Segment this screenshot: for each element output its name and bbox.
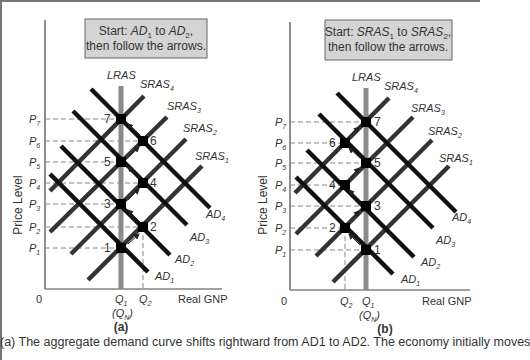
qn-label-b: (QN)	[359, 309, 380, 323]
svg-text:5: 5	[104, 155, 111, 169]
svg-text:P2: P2	[275, 222, 286, 236]
svg-text:1: 1	[104, 241, 111, 255]
svg-text:P3: P3	[29, 198, 40, 212]
figure-caption: (a) The aggregate demand curve shifts ri…	[0, 335, 482, 349]
svg-text:7: 7	[374, 115, 381, 129]
svg-text:2: 2	[150, 220, 157, 234]
svg-text:5: 5	[374, 156, 381, 170]
callout-line1-a: Start: AD1 to AD2,	[99, 24, 193, 40]
callout-line2-a: then follow the arrows.	[86, 39, 206, 53]
svg-text:SRAS1: SRAS1	[195, 150, 229, 164]
svg-text:P5: P5	[29, 156, 40, 170]
svg-text:P7: P7	[29, 113, 41, 127]
svg-text:AD2: AD2	[174, 253, 194, 267]
svg-text:3: 3	[104, 197, 111, 211]
svg-text:SRAS4: SRAS4	[384, 80, 418, 94]
svg-text:P6: P6	[29, 135, 40, 149]
panel-b: Start: SRAS1 to SRAS2, then follow the a…	[256, 20, 473, 336]
svg-text:AD4: AD4	[451, 211, 471, 225]
svg-text:1: 1	[374, 243, 381, 257]
x-axis-label-b: Real GNP	[422, 295, 472, 307]
svg-text:P6: P6	[275, 137, 286, 151]
q2-label-a: Q2	[139, 293, 152, 307]
callout-line1-b: Start: SRAS1 to SRAS2,	[325, 25, 451, 41]
q1-label-b: Q1	[362, 295, 375, 309]
svg-text:SRAS1: SRAS1	[439, 152, 473, 166]
q2-label-b: Q2	[340, 295, 353, 309]
panel-label-a: (a)	[114, 320, 129, 334]
svg-text:P1: P1	[29, 242, 40, 256]
svg-text:6: 6	[329, 136, 336, 150]
price-ticks-b: P7 P6 P5 P4 P3 P2 P1	[275, 116, 287, 258]
svg-text:AD1: AD1	[400, 273, 420, 287]
svg-text:7: 7	[104, 112, 111, 126]
svg-text:AD3: AD3	[435, 234, 455, 248]
svg-text:P4: P4	[29, 177, 40, 191]
svg-text:P5: P5	[275, 157, 286, 171]
origin-label-a: 0	[36, 293, 42, 305]
svg-text:4: 4	[150, 176, 157, 190]
svg-text:6: 6	[150, 134, 157, 148]
svg-text:LRAS: LRAS	[352, 71, 381, 83]
svg-text:4: 4	[329, 178, 336, 192]
svg-text:SRAS3: SRAS3	[411, 102, 445, 116]
panel-a: Start: AD1 to AD2, then follow the arrow…	[11, 19, 229, 334]
x-axis-label-a: Real GNP	[178, 293, 228, 305]
svg-text:P2: P2	[29, 221, 40, 235]
svg-text:2: 2	[329, 221, 336, 235]
svg-text:P7: P7	[275, 116, 287, 130]
svg-text:AD1: AD1	[154, 270, 174, 284]
svg-text:SRAS2: SRAS2	[428, 125, 462, 139]
svg-text:P3: P3	[275, 200, 286, 214]
svg-text:AD4: AD4	[205, 208, 225, 222]
q1-label-a: Q1	[115, 293, 128, 307]
svg-text:AD3: AD3	[189, 231, 209, 245]
svg-text:3: 3	[374, 199, 381, 213]
svg-text:P1: P1	[275, 244, 286, 258]
qn-label-a: (QN)	[112, 307, 133, 321]
svg-text:LRAS: LRAS	[107, 69, 136, 81]
svg-text:P4: P4	[275, 179, 286, 193]
y-axis-label-b: Price Level	[256, 175, 270, 234]
svg-text:SRAS4: SRAS4	[140, 78, 174, 92]
price-ticks-a: P7 P6 P5 P4 P3 P2 P1	[29, 113, 41, 256]
svg-text:SRAS2: SRAS2	[183, 122, 217, 136]
origin-label-b: 0	[281, 295, 287, 307]
svg-text:SRAS3: SRAS3	[167, 100, 201, 114]
y-axis-label-a: Price Level	[11, 175, 25, 234]
callout-line2-b: then follow the arrows.	[328, 40, 448, 54]
panel-label-b: (b)	[377, 322, 392, 336]
svg-text:AD2: AD2	[420, 256, 440, 270]
